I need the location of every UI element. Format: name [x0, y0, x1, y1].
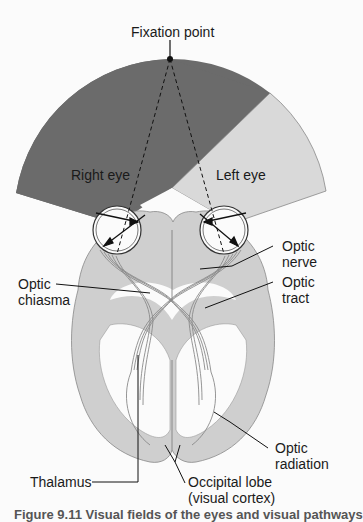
thalamus-label: Thalamus — [30, 474, 91, 490]
optic-radiation-label-line1: Optic — [275, 440, 308, 456]
optic-chiasma-label-line2: chiasma — [18, 292, 70, 308]
optic-chiasma-label-line1: Optic — [18, 276, 51, 292]
fixation-point-marker — [167, 56, 173, 62]
optic-tract-label-line2: tract — [282, 290, 309, 306]
right-eye-label: Right eye — [71, 167, 130, 183]
figure-caption: Figure 9.11 Visual fields of the eyes an… — [14, 507, 363, 522]
optic-nerve-label-line2: nerve — [282, 254, 317, 270]
optic-radiation-label-line2: radiation — [275, 456, 329, 472]
occipital-lobe-label-line1: Occipital lobe — [188, 474, 272, 490]
left-eyeball — [200, 206, 248, 254]
optic-tract-label-line1: Optic — [282, 274, 315, 290]
left-eye-label: Left eye — [216, 167, 266, 183]
optic-nerve-label-line1: Optic — [282, 238, 315, 254]
right-eyeball — [93, 206, 141, 254]
occipital-lobe-label-line2: (visual cortex) — [188, 490, 275, 506]
fixation-point-label: Fixation point — [131, 24, 214, 40]
